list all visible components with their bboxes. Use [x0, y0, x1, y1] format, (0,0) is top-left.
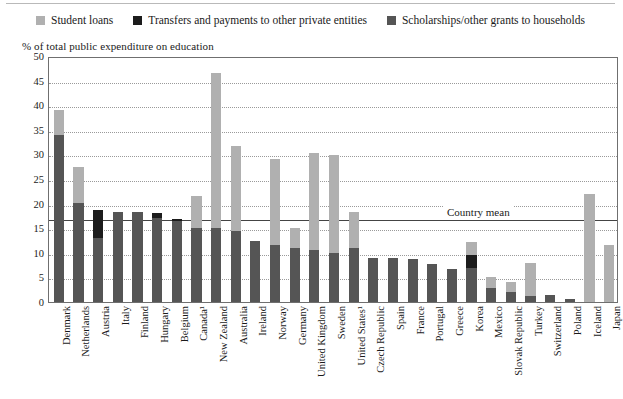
bar-segment: [329, 253, 339, 302]
x-category-label: Slovak Republic: [514, 306, 525, 376]
y-tick-label: 50: [34, 52, 45, 63]
bar-segment: [388, 258, 398, 302]
bar-segment: [408, 259, 418, 302]
bar-segment: [290, 228, 300, 248]
bar-column[interactable]: [604, 56, 614, 302]
x-axis-category-labels: DenmarkNetherlandsAustriaItalyFinlandHun…: [48, 306, 618, 398]
y-tick-label: 20: [34, 199, 45, 210]
y-tick-label: 10: [34, 249, 45, 260]
bar-column[interactable]: [466, 56, 476, 302]
bar-column[interactable]: [349, 56, 359, 302]
bar-segment: [54, 110, 64, 135]
bar-column[interactable]: [113, 56, 123, 302]
bar-segment: [565, 299, 575, 302]
bar-column[interactable]: [54, 56, 64, 302]
x-category-label: Austria: [101, 306, 112, 337]
bar-column[interactable]: [152, 56, 162, 302]
bar-column[interactable]: [408, 56, 418, 302]
bar-column[interactable]: [447, 56, 457, 302]
x-category-label: Ireland: [258, 306, 269, 336]
bar-segment: [73, 167, 83, 203]
legend-item-scholarships: Scholarships/other grants to households: [387, 14, 585, 26]
bar-segment: [447, 269, 457, 302]
bar-column[interactable]: [309, 56, 319, 302]
legend-swatch-scholarships: [387, 16, 396, 25]
bar-column[interactable]: [250, 56, 260, 302]
bar-column[interactable]: [486, 56, 496, 302]
x-category-label: Switzerland: [553, 306, 564, 356]
bar-column[interactable]: [368, 56, 378, 302]
bar-column[interactable]: [132, 56, 142, 302]
bar-segment: [54, 135, 64, 302]
bar-column[interactable]: [231, 56, 241, 302]
legend-label-loans: Student loans: [51, 14, 113, 26]
legend-label-scholarships: Scholarships/other grants to households: [402, 14, 585, 26]
bar-segment: [309, 153, 319, 250]
bar-column[interactable]: [191, 56, 201, 302]
bar-column[interactable]: [565, 56, 575, 302]
header-divider: [6, 3, 615, 4]
y-tick-label: 30: [34, 150, 45, 161]
y-tick-label: 35: [34, 126, 45, 137]
bar-column[interactable]: [172, 56, 182, 302]
bar-column[interactable]: [525, 56, 535, 302]
bar-segment: [211, 73, 221, 228]
bar-segment: [231, 231, 241, 302]
bar-segment: [191, 196, 201, 228]
bar-column[interactable]: [73, 56, 83, 302]
bar-segment: [172, 219, 182, 221]
bar-column[interactable]: [584, 56, 594, 302]
bar-column[interactable]: [211, 56, 221, 302]
bar-segment: [486, 288, 496, 302]
bar-segment: [113, 212, 123, 302]
bar-segment: [506, 282, 516, 292]
x-category-label: Korea: [475, 306, 486, 332]
bar-segment: [545, 295, 555, 302]
bar-column[interactable]: [329, 56, 339, 302]
x-category-label: Japan: [612, 306, 623, 330]
bar-segment: [250, 241, 260, 302]
y-axis-ticks: 05101520253035404550: [22, 57, 44, 303]
x-category-label: New Zealand: [219, 306, 230, 362]
bar-segment: [604, 245, 614, 302]
x-category-label: Turkey: [534, 306, 545, 336]
y-tick-label: 5: [39, 273, 44, 284]
bar-column[interactable]: [545, 56, 555, 302]
chart-legend: Student loansTransfers and payments to o…: [0, 14, 621, 26]
y-tick-label: 0: [39, 298, 44, 309]
bar-segment: [93, 210, 103, 238]
bar-column[interactable]: [290, 56, 300, 302]
bar-column[interactable]: [93, 56, 103, 302]
bar-segment: [525, 263, 535, 296]
bar-column[interactable]: [270, 56, 280, 302]
y-axis-title: % of total public expenditure on educati…: [22, 40, 214, 52]
x-category-label: Portugal: [435, 306, 446, 342]
bar-segment: [152, 213, 162, 218]
bar-segment: [466, 242, 476, 255]
x-category-label: Mexico: [494, 306, 505, 338]
x-category-label: Australia: [239, 306, 250, 345]
bar-segment: [93, 238, 103, 302]
x-category-label: Italy: [121, 306, 132, 325]
y-tick-label: 45: [34, 76, 45, 87]
bar-segment: [211, 228, 221, 302]
bar-segment: [172, 221, 182, 302]
bar-segment: [368, 258, 378, 302]
bar-column[interactable]: [506, 56, 516, 302]
bar-segment: [506, 292, 516, 302]
x-category-label: Belgium: [180, 306, 191, 342]
legend-item-loans: Student loans: [36, 14, 113, 26]
x-category-label: United States¹: [357, 306, 368, 365]
bar-segment: [329, 155, 339, 252]
bar-group: [49, 58, 617, 302]
bar-segment: [290, 248, 300, 302]
bar-column[interactable]: [427, 56, 437, 302]
x-category-label: Germany: [298, 306, 309, 345]
x-category-label: Denmark: [62, 306, 73, 345]
x-category-label: Poland: [573, 306, 584, 335]
bar-segment: [349, 212, 359, 247]
y-tick-label: 15: [34, 224, 45, 235]
y-tick-label: 40: [34, 101, 45, 112]
bar-column[interactable]: [388, 56, 398, 302]
